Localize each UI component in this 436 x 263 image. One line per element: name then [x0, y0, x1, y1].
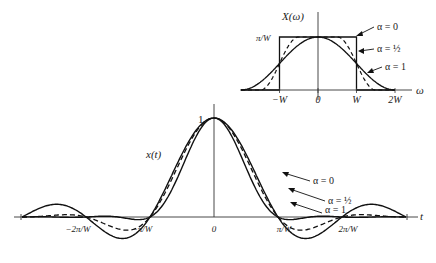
inset-tick-label: 2W: [388, 94, 403, 105]
inset-y-label: X(ω): [281, 10, 304, 23]
tick-label: π/W: [277, 224, 293, 234]
figure: 1 x(t) t −2π/W−π/W0π/W2π/Wα = 1 α = 0 α …: [0, 0, 436, 263]
legend-alpha-half: α = ½: [328, 195, 352, 206]
tick-label: −π/W: [132, 224, 154, 234]
tick-label: 2π/W: [338, 224, 359, 234]
y-axis-label: x(t): [145, 148, 162, 161]
inset-legend-alpha-0: α = 0: [377, 21, 398, 32]
inset-plot: X(ω) π/W ω −W0W2W α = 0 α = ½ α = 1: [240, 10, 424, 105]
inset-height-label: π/W: [256, 33, 272, 43]
inset-tick-label: −W: [272, 94, 289, 105]
inset-legend-alpha-1: α = 1: [385, 61, 406, 72]
peak-label: 1: [198, 113, 204, 125]
inset-legend: α = 0 α = ½ α = 1: [356, 21, 406, 73]
tick-label: −2π/W: [65, 224, 92, 234]
legend-alpha-0: α = 0: [313, 175, 334, 186]
inset-tick-label: W: [352, 94, 362, 105]
inset-tick-label: 0: [316, 94, 321, 105]
main-plot: 1 x(t) t −2π/W−π/W0π/W2π/Wα = 1 α = 0 α …: [14, 104, 424, 239]
inset-x-label: ω: [416, 84, 424, 96]
tick-label: 0: [212, 224, 217, 234]
x-axis-label: t: [420, 210, 424, 222]
inset-legend-alpha-half: α = ½: [377, 43, 401, 54]
